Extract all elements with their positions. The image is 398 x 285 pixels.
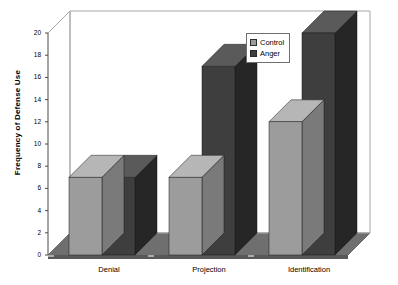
chart-canvas: [0, 0, 398, 285]
y-tick-label-10: 10: [23, 141, 41, 148]
y-tick-label-20: 20: [23, 30, 41, 37]
y-tick-label-12: 12: [23, 119, 41, 126]
legend-label-anger: Anger: [260, 49, 280, 58]
x-tick-label-identification: Identification: [288, 265, 330, 274]
y-tick-label-16: 16: [23, 74, 41, 81]
bar-chart-figure: Frequency of Defense Use 024681012141618…: [0, 0, 398, 285]
y-tick-label-6: 6: [23, 185, 41, 192]
y-tick-label-0: 0: [23, 252, 41, 259]
legend-item-control: Control: [250, 37, 284, 48]
legend-swatch-control: [250, 39, 257, 46]
x-tick-label-denial: Denial: [98, 265, 119, 274]
y-tick-label-14: 14: [23, 97, 41, 104]
x-tick-label-projection: Projection: [192, 265, 225, 274]
legend-item-anger: Anger: [250, 48, 284, 59]
y-tick-label-4: 4: [23, 208, 41, 215]
legend-label-control: Control: [260, 38, 284, 47]
y-tick-label-2: 2: [23, 230, 41, 237]
chart-legend: Control Anger: [246, 33, 290, 63]
y-tick-label-8: 8: [23, 163, 41, 170]
y-tick-label-18: 18: [23, 52, 41, 59]
plot-area: [0, 0, 398, 285]
legend-swatch-anger: [250, 50, 257, 57]
